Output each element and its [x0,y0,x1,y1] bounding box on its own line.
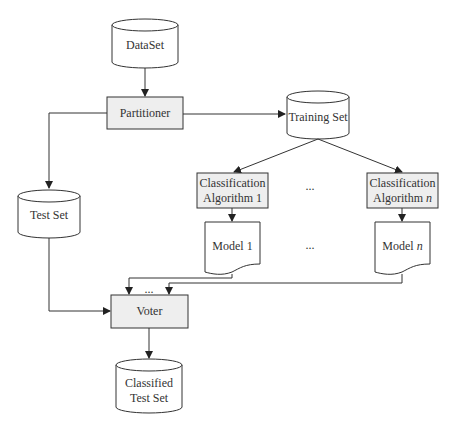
algorithm-n-line2: Algorithm n [367,191,438,206]
classified-test-set-label: Classified Test Set [116,376,182,406]
model-n-var: n [417,239,423,253]
algorithm-1-label: Classification Algorithm 1 [197,176,268,206]
classified-line1: Classified [116,376,182,391]
model-n-label: Model n [375,239,430,254]
models-ellipsis: ... [295,238,325,253]
training-set-label: Training Set [284,110,352,125]
edge-partitioner-testset [49,113,107,188]
dataset-label: DataSet [112,38,178,53]
algorithm-n-label: Classification Algorithm n [367,176,438,206]
model-n-prefix: Model [382,239,416,253]
algorithms-ellipsis: ... [295,179,325,194]
edge-testset-voter [49,238,110,311]
edge-modeln-voter [169,274,402,294]
voter-label: Voter [111,304,188,319]
model-1-label: Model 1 [205,239,260,254]
partitioner-label: Partitioner [107,106,183,121]
edge-training-algo1 [234,139,318,172]
algorithm-n-line1: Classification [367,176,438,191]
edge-training-algon [318,139,402,172]
algorithm-n-prefix: Algorithm [373,191,426,205]
classified-line2: Test Set [116,391,182,406]
test-set-label: Test Set [18,208,80,223]
voter-inputs-ellipsis: ... [134,282,164,297]
algorithm-n-var: n [426,191,432,205]
algorithm-1-line1: Classification [197,176,268,191]
algorithm-1-line2: Algorithm 1 [197,191,268,206]
